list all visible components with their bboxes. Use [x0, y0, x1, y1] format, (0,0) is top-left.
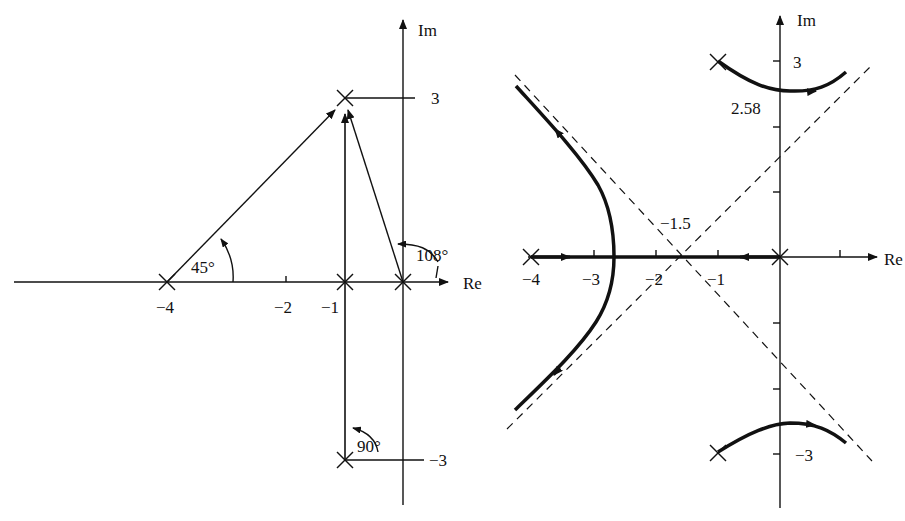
crossing-label: 2.58	[731, 99, 761, 118]
angle-label-45: 45°	[191, 258, 215, 277]
right-diagram	[507, 16, 877, 508]
left-tick-label-minus1: −1	[321, 298, 339, 317]
left-tick-label-minus4: −4	[156, 298, 175, 317]
right-pole-lower	[710, 445, 726, 461]
left-im-label: Im	[418, 21, 437, 40]
right-im-label: Im	[797, 11, 816, 30]
lower-branch-locus[interactable]	[718, 423, 846, 452]
left-vector-from-minus4	[167, 110, 335, 282]
right-tick-label-minus3: −3	[582, 270, 600, 289]
upper-branch-locus[interactable]	[718, 61, 846, 91]
left-im-tick-3: 3	[431, 89, 440, 108]
right-tick-label-minus4: −4	[522, 270, 541, 289]
angle-arc-45	[221, 239, 233, 282]
left-im-tick-minus3: −3	[429, 451, 447, 470]
left-diagram	[14, 20, 448, 505]
left-re-label: Re	[463, 274, 482, 293]
angle-label-90: 90°	[357, 437, 381, 456]
left-branch-locus[interactable]	[515, 86, 614, 410]
right-pole-upper	[710, 54, 726, 70]
left-tick-label-minus2: −2	[274, 298, 292, 317]
right-im-tick-minus3: −3	[795, 446, 813, 465]
asymptote-1[interactable]	[515, 75, 872, 461]
right-labels: Im Re −4 −3 −2 −1 3 −3 −1.5 2.58	[522, 11, 903, 465]
right-tick-label-minus1: −1	[707, 270, 725, 289]
right-tick-label-minus2: −2	[645, 270, 663, 289]
angle-label-108: 108°	[416, 246, 448, 265]
left-labels: Im Re −4 −2 −1 3 −3 45° 108° 90°	[156, 21, 482, 470]
angle-arc-108-tail	[436, 266, 438, 278]
asymptote-2[interactable]	[507, 67, 870, 429]
right-re-label: Re	[884, 250, 903, 269]
centroid-label: −1.5	[660, 214, 691, 233]
left-vector-from-origin	[348, 110, 403, 282]
right-im-tick-3: 3	[793, 53, 802, 72]
root-locus-figure: Im Re −4 −2 −1 3 −3 45° 108° 90°	[0, 0, 905, 521]
